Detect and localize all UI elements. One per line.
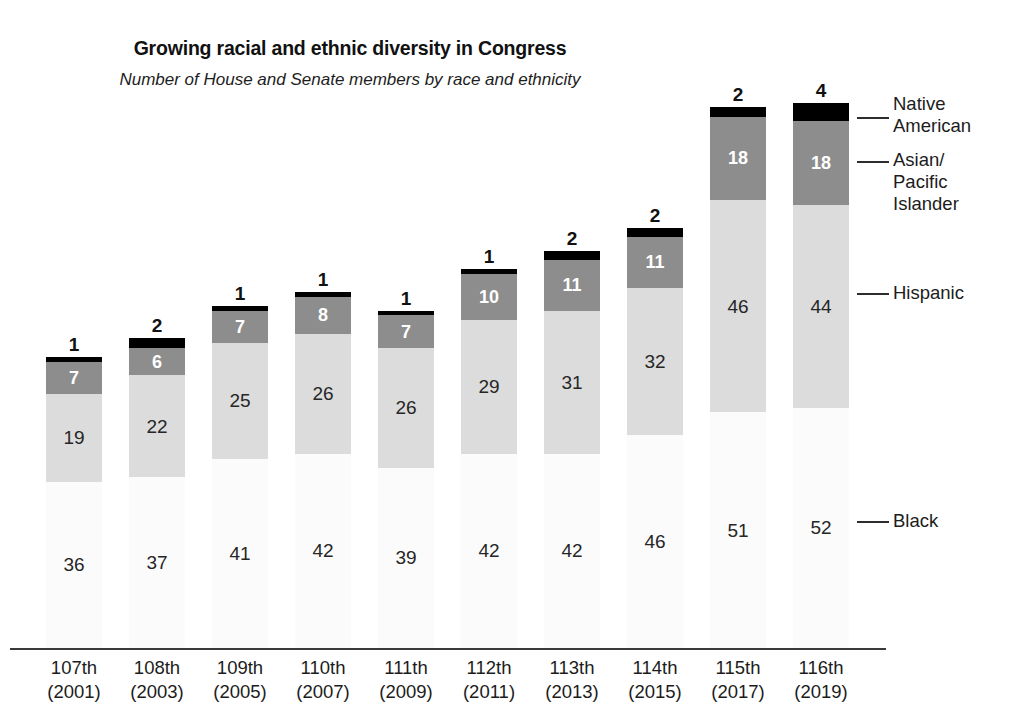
x-tick-year: (2011) <box>443 680 535 704</box>
segment-asian-pacific-islander[interactable]: 7 <box>212 311 268 343</box>
legend-leader-line <box>857 521 889 523</box>
x-tick-year: (2003) <box>111 680 203 704</box>
x-axis-line <box>10 648 886 650</box>
segment-value-hispanic: 46 <box>727 297 748 316</box>
x-tick-year: (2009) <box>360 680 452 704</box>
bar-group[interactable]: 2113246 <box>627 228 683 648</box>
segment-asian-pacific-islander[interactable]: 18 <box>793 121 849 204</box>
legend-label[interactable]: Black <box>893 510 938 532</box>
segment-hispanic[interactable]: 31 <box>544 311 600 454</box>
segment-value-hispanic: 22 <box>146 417 167 436</box>
segment-native-american[interactable]: 2 <box>544 251 600 260</box>
x-tick-label: 108th(2003) <box>111 656 203 705</box>
x-tick-congress: 115th <box>692 656 784 680</box>
x-tick-year: (2017) <box>692 680 784 704</box>
segment-asian-pacific-islander[interactable]: 11 <box>544 260 600 311</box>
segment-value-black: 52 <box>810 518 831 537</box>
x-tick-congress: 114th <box>609 656 701 680</box>
segment-black[interactable]: 42 <box>544 454 600 648</box>
legend-label[interactable]: Native American <box>893 93 971 137</box>
x-tick-label: 109th(2005) <box>194 656 286 705</box>
x-tick-year: (2001) <box>28 680 120 704</box>
segment-value-hispanic: 26 <box>395 398 416 417</box>
segment-asian-pacific-islander[interactable]: 7 <box>46 362 102 394</box>
segment-asian-pacific-islander[interactable]: 6 <box>129 348 185 376</box>
bar-group[interactable]: 172541 <box>212 306 268 648</box>
segment-value-native-american: 1 <box>461 247 517 266</box>
segment-native-american[interactable]: 4 <box>793 103 849 121</box>
segment-value-asian: 18 <box>728 149 748 167</box>
segment-value-asian: 7 <box>401 323 411 341</box>
segment-hispanic[interactable]: 26 <box>295 334 351 454</box>
segment-hispanic[interactable]: 46 <box>710 200 766 413</box>
segment-hispanic[interactable]: 26 <box>378 348 434 468</box>
segment-value-native-american: 2 <box>627 206 683 225</box>
segment-asian-pacific-islander[interactable]: 10 <box>461 274 517 320</box>
legend-leader-line <box>857 293 889 295</box>
bar-group[interactable]: 172639 <box>378 311 434 648</box>
segment-black[interactable]: 39 <box>378 468 434 648</box>
segment-native-american[interactable]: 2 <box>129 338 185 347</box>
bar-group[interactable]: 4184452 <box>793 103 849 648</box>
segment-native-american[interactable]: 2 <box>627 228 683 237</box>
segment-black[interactable]: 37 <box>129 477 185 648</box>
segment-hispanic[interactable]: 44 <box>793 205 849 408</box>
segment-black[interactable]: 36 <box>46 482 102 648</box>
segment-black[interactable]: 41 <box>212 459 268 648</box>
segment-black[interactable]: 42 <box>295 454 351 648</box>
chart-figure: Growing racial and ethnic diversity in C… <box>0 0 1028 728</box>
legend-label[interactable]: Hispanic <box>893 282 964 304</box>
x-tick-congress: 116th <box>775 656 867 680</box>
bar-group[interactable]: 2113142 <box>544 251 600 648</box>
segment-hispanic[interactable]: 19 <box>46 394 102 482</box>
segment-asian-pacific-islander[interactable]: 11 <box>627 237 683 288</box>
x-tick-label: 113th(2013) <box>526 656 618 705</box>
segment-hispanic[interactable]: 25 <box>212 343 268 459</box>
x-tick-year: (2015) <box>609 680 701 704</box>
segment-value-native-american: 1 <box>378 289 434 308</box>
segment-black[interactable]: 42 <box>461 454 517 648</box>
segment-hispanic[interactable]: 29 <box>461 320 517 454</box>
segment-asian-pacific-islander[interactable]: 8 <box>295 297 351 334</box>
segment-value-native-american: 2 <box>544 229 600 248</box>
plot-area: 1719362622371725411826421726391102942211… <box>0 0 900 728</box>
segment-value-black: 41 <box>229 544 250 563</box>
legend-label[interactable]: Asian/ Pacific Islander <box>893 149 959 214</box>
legend-leader-line <box>857 161 889 163</box>
bar-group[interactable]: 171936 <box>46 357 102 648</box>
x-tick-label: 112th(2011) <box>443 656 535 705</box>
segment-value-asian: 11 <box>562 276 581 294</box>
bar-group[interactable]: 182642 <box>295 292 351 648</box>
segment-value-hispanic: 32 <box>644 352 665 371</box>
segment-value-native-american: 1 <box>46 335 102 354</box>
segment-black[interactable]: 51 <box>710 412 766 648</box>
segment-value-hispanic: 44 <box>810 297 831 316</box>
segment-value-black: 51 <box>727 521 748 540</box>
x-tick-congress: 108th <box>111 656 203 680</box>
x-tick-congress: 112th <box>443 656 535 680</box>
segment-value-asian: 6 <box>152 353 162 371</box>
x-tick-congress: 107th <box>28 656 120 680</box>
segment-black[interactable]: 46 <box>627 435 683 648</box>
segment-value-black: 46 <box>644 532 665 551</box>
segment-value-asian: 10 <box>479 288 499 306</box>
segment-native-american[interactable]: 2 <box>710 107 766 116</box>
x-tick-label: 116th(2019) <box>775 656 867 705</box>
segment-value-black: 37 <box>146 553 167 572</box>
segment-value-native-american: 4 <box>793 81 849 100</box>
bar-group[interactable]: 1102942 <box>461 269 517 648</box>
segment-value-native-american: 2 <box>710 85 766 104</box>
segment-value-asian: 18 <box>811 154 831 172</box>
segment-hispanic[interactable]: 32 <box>627 288 683 436</box>
segment-black[interactable]: 52 <box>793 408 849 648</box>
segment-value-native-american: 1 <box>295 270 351 289</box>
x-tick-year: (2007) <box>277 680 369 704</box>
segment-asian-pacific-islander[interactable]: 18 <box>710 117 766 200</box>
bar-group[interactable]: 2184651 <box>710 107 766 648</box>
segment-hispanic[interactable]: 22 <box>129 375 185 477</box>
segment-value-asian: 11 <box>645 253 664 271</box>
x-tick-label: 114th(2015) <box>609 656 701 705</box>
segment-value-black: 42 <box>312 541 333 560</box>
segment-asian-pacific-islander[interactable]: 7 <box>378 315 434 347</box>
bar-group[interactable]: 262237 <box>129 338 185 648</box>
